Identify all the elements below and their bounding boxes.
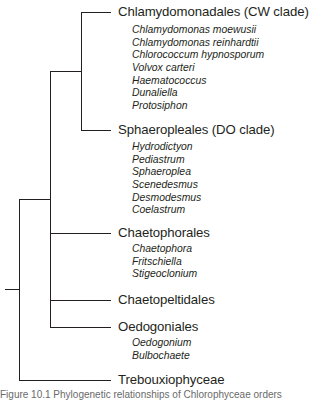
branch-trebouxiophyceae: [19, 380, 111, 381]
species-item: Coelastrum: [132, 204, 201, 217]
clade-label-oedogoniales: Oedogoniales: [118, 319, 198, 334]
figure-caption: Figure 10.1 Phylogenetic relationships o…: [0, 389, 282, 400]
species-item: Dunaliella: [132, 87, 264, 100]
species-item: Chlamydomonas moewusii: [132, 24, 264, 37]
species-item: Oedogonium: [132, 337, 192, 350]
chlorophyceae-vertical: [50, 71, 51, 328]
species-item: Bulbochaete: [132, 350, 192, 363]
branch-sphaeropleales: [81, 130, 111, 131]
species-item: Chlorococcum hypnosporum: [132, 49, 264, 62]
species-item: Haematococcus: [132, 75, 264, 88]
branch-chlorophyceae: [19, 199, 50, 200]
branch-chaetopeltidales: [50, 300, 111, 301]
species-item: Fritschiella: [132, 256, 197, 269]
species-item: Hydrodictyon: [132, 141, 201, 154]
species-item: Protosiphon: [132, 100, 264, 113]
clade-label-chlamydomonadales: Chlamydomonadales (CW clade): [118, 4, 309, 19]
species-item: Stigeoclonium: [132, 268, 197, 281]
species-item: Scenedesmus: [132, 179, 201, 192]
cw-do-vertical: [81, 12, 82, 131]
species-list-chlamydomonadales: Chlamydomonas moewusii Chlamydomonas rei…: [132, 24, 264, 113]
species-list-oedogoniales: Oedogonium Bulbochaete: [132, 337, 192, 362]
branch-chlamydomonadales: [81, 12, 111, 13]
species-item: Chlamydomonas reinhardtii: [132, 37, 264, 50]
clade-label-trebouxiophyceae: Trebouxiophyceae: [118, 372, 224, 387]
species-item: Sphaeroplea: [132, 166, 201, 179]
species-item: Chaetophora: [132, 243, 197, 256]
clade-label-sphaeropleales: Sphaeropleales (DO clade): [118, 122, 275, 137]
root-stub: [5, 289, 19, 290]
branch-oedogoniales: [50, 327, 111, 328]
branch-cw-do: [50, 71, 81, 72]
clade-label-chaetophorales: Chaetophorales: [118, 225, 210, 240]
root-vertical: [19, 199, 20, 381]
species-list-sphaeropleales: Hydrodictyon Pediastrum Sphaeroplea Scen…: [132, 141, 201, 217]
species-item: Desmodesmus: [132, 192, 201, 205]
species-list-chaetophorales: Chaetophora Fritschiella Stigeoclonium: [132, 243, 197, 281]
branch-chaetophorales: [50, 233, 111, 234]
clade-label-chaetopeltidales: Chaetopeltidales: [118, 292, 215, 307]
species-item: Pediastrum: [132, 154, 201, 167]
species-item: Volvox carteri: [132, 62, 264, 75]
